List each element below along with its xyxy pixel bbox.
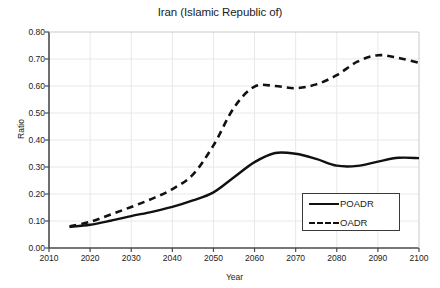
legend-label-poadr: POADR bbox=[340, 198, 374, 209]
chart-figure: Iran (Islamic Republic of) Ratio Year 0.… bbox=[0, 0, 440, 288]
legend-item-oadr: OADR bbox=[303, 213, 401, 232]
chart-legend: POADR OADR bbox=[302, 193, 400, 231]
legend-line-solid-icon bbox=[309, 198, 339, 210]
legend-line-dashed-icon bbox=[309, 217, 339, 229]
legend-label-oadr: OADR bbox=[340, 217, 367, 228]
legend-item-poadr: POADR bbox=[303, 194, 401, 213]
plot-area bbox=[0, 0, 440, 288]
